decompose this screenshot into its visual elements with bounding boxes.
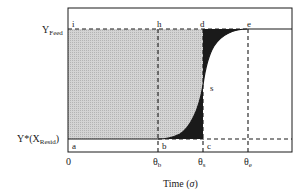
y-resid-close: ) (56, 133, 59, 144)
x-axis-title: Time (σ) (163, 179, 198, 189)
point-i: i (72, 20, 75, 29)
point-c: c (207, 142, 211, 151)
origin-label: 0 (66, 157, 71, 167)
theta-s-label: θs (198, 157, 206, 170)
theta-e-label: θe (244, 157, 252, 170)
point-h: h (157, 20, 162, 29)
point-e: e (247, 20, 251, 29)
theta-e-subscript: e (249, 161, 252, 169)
light-shaded-area (68, 29, 203, 139)
y-resid-subscript: Resid (40, 138, 56, 146)
point-d: d (200, 20, 205, 29)
y-resid-symbol: Y*(X (17, 133, 40, 144)
theta-b-label: θb (153, 157, 161, 170)
theta-b-subscript: b (158, 161, 162, 169)
point-a: a (72, 142, 76, 151)
dark-area-upper (203, 29, 248, 85)
y-resid-label: Y*(XResid) (17, 134, 59, 147)
x-axis-title-close: ) (195, 178, 198, 189)
theta-s-subscript: s (203, 161, 206, 169)
y-feed-label: YFeed (42, 25, 63, 38)
point-s: s (210, 84, 214, 93)
point-b: b (162, 142, 167, 151)
x-axis-title-text: Time ( (163, 178, 190, 189)
y-feed-subscript: Feed (49, 29, 63, 37)
